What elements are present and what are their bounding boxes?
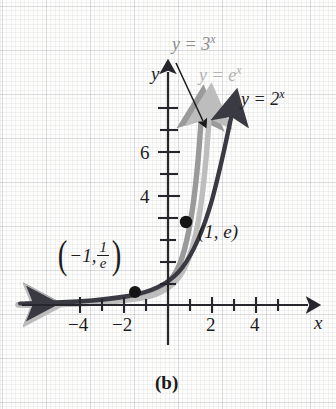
x-tick-label-minus-2: −2	[112, 315, 132, 334]
point-label-neg1-1-over-e: ( −1, 1 e )	[56, 239, 123, 272]
figure-caption: (b)	[155, 372, 178, 394]
fraction-denominator: e	[98, 256, 109, 271]
curve-label-2x-base: y = 2	[241, 89, 279, 109]
fraction-group: ( −1, 1 e )	[56, 239, 123, 272]
fraction-numerator: 1	[97, 240, 109, 255]
curve-label-2-to-the-x: y = 2x	[241, 88, 284, 108]
x-tick-label-4: 4	[250, 315, 260, 334]
x-axis-label: x	[314, 313, 322, 332]
curve-label-ex-exponent: x	[236, 63, 241, 77]
point-label-1-e: (1, e)	[198, 222, 238, 241]
curve-label-3x-exponent: x	[210, 32, 215, 46]
y-tick-label-4: 4	[140, 187, 150, 206]
exponential-functions-figure: y = 3x y = ex y = 2x y x 6 4 −4 −2 2 4 (…	[0, 0, 336, 409]
point-marker-neg1-1-over-e	[129, 286, 141, 298]
curve-label-e-to-the-x: y = ex	[199, 64, 241, 84]
y-axis-label: y	[151, 64, 159, 83]
curve-label-3-to-the-x: y = 3x	[172, 33, 215, 53]
curve-label-2x-exponent: x	[279, 87, 284, 101]
x-tick-label-minus-4: −4	[68, 315, 88, 334]
y-tick-label-6: 6	[140, 143, 150, 162]
left-paren: (	[58, 239, 68, 272]
x-coordinate-part: −1,	[69, 246, 96, 265]
fraction-1-over-e: 1 e	[97, 240, 109, 272]
x-tick-label-2: 2	[206, 315, 216, 334]
curve-y-equals-e-to-the-x	[18, 120, 209, 305]
point-marker-1-e	[180, 216, 192, 228]
curve-label-3x-base: y = 3	[172, 34, 210, 54]
curve-label-ex-base: y = e	[199, 65, 236, 85]
plot-area	[0, 0, 336, 409]
right-paren: )	[112, 239, 122, 272]
